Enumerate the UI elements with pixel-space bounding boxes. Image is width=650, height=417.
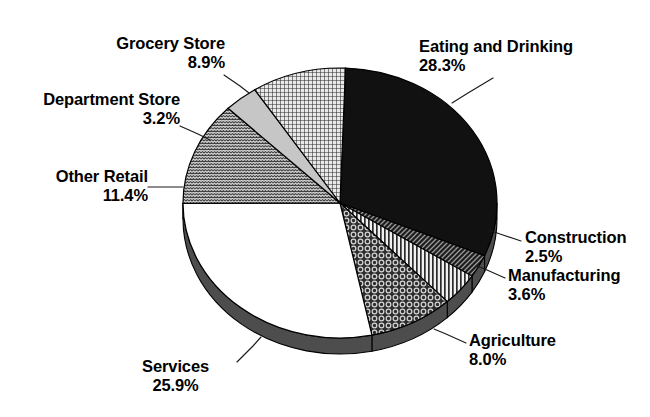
pie-label-percent-construction: 2.5% (525, 247, 626, 266)
leader-line-eating-and-drinking (452, 78, 493, 103)
pie-label-percent-other-retail: 11.4% (56, 186, 148, 205)
pie-label-construction: Construction2.5% (525, 228, 626, 266)
leader-line-services (237, 337, 261, 362)
pie-label-name-agriculture: Agriculture (469, 331, 556, 349)
pie-label-name-manufacturing: Manufacturing (508, 266, 620, 284)
pie-label-eating-and-drinking: Eating and Drinking28.3% (419, 37, 573, 75)
pie-label-percent-manufacturing: 3.6% (508, 285, 620, 304)
pie-label-name-services: Services (142, 357, 209, 375)
pie-slice-services[interactable] (183, 203, 372, 338)
pie-label-name-grocery-store: Grocery Store (116, 34, 225, 52)
pie-label-agriculture: Agriculture8.0% (469, 331, 556, 369)
pie-label-percent-grocery-store: 8.9% (116, 53, 225, 72)
pie-label-name-construction: Construction (525, 228, 626, 246)
pie-label-name-eating-and-drinking: Eating and Drinking (419, 37, 573, 55)
pie-label-services: Services25.9% (142, 357, 209, 395)
pie-slice-group (183, 68, 497, 338)
pie-label-percent-department-store: 3.2% (43, 109, 180, 128)
pie-chart-figure: Eating and Drinking28.3%Construction2.5%… (0, 0, 650, 417)
pie-label-name-other-retail: Other Retail (56, 167, 148, 185)
pie-label-grocery-store: Grocery Store8.9% (116, 34, 225, 72)
pie-label-percent-agriculture: 8.0% (469, 350, 556, 369)
pie-label-percent-eating-and-drinking: 28.3% (419, 56, 573, 75)
leader-line-grocery-store (224, 75, 249, 93)
leader-line-agriculture (434, 329, 466, 343)
pie-label-percent-services: 25.9% (142, 376, 209, 395)
pie-label-manufacturing: Manufacturing3.6% (508, 266, 620, 304)
pie-label-department-store: Department Store3.2% (43, 90, 180, 128)
pie-label-other-retail: Other Retail11.4% (56, 167, 148, 205)
pie-label-name-department-store: Department Store (43, 90, 180, 108)
